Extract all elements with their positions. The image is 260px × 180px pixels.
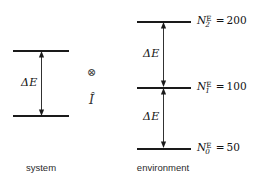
environment-upper-delta-e-label: ΔE [143, 48, 159, 59]
tensor-product-icon: ⊗ [87, 67, 96, 78]
environment-level-1-label: N1E=100 [197, 81, 247, 94]
env-level-0-value: 50 [227, 141, 240, 153]
energy-level-diagram: ΔE system ⊗ Î ΔE ΔE [0, 0, 260, 180]
system-caption: system [0, 163, 82, 173]
environment-upper-gap-arrow [159, 22, 168, 87]
environment-lower-gap-arrow [159, 88, 168, 148]
identity-operator-symbol: Î [89, 93, 94, 106]
system-energy-gap-arrow [37, 51, 46, 116]
env-level-1-value: 100 [227, 80, 247, 92]
env-level-2-equals: = [216, 14, 225, 26]
env-level-2-value: 200 [227, 14, 247, 26]
env-level-0-equals: = [216, 141, 225, 153]
env-level-1-superscript: E [206, 80, 211, 89]
environment-level-0-bar [137, 148, 191, 150]
environment-level-2-label: N2E=200 [197, 15, 247, 28]
environment-caption: environment [122, 163, 204, 173]
env-level-1-equals: = [216, 80, 225, 92]
env-level-2-superscript: E [206, 14, 211, 23]
environment-level-0-label: N0E=50 [197, 142, 240, 155]
system-delta-e-label: ΔE [21, 77, 37, 88]
env-level-0-superscript: E [206, 141, 211, 150]
environment-lower-delta-e-label: ΔE [143, 111, 159, 122]
